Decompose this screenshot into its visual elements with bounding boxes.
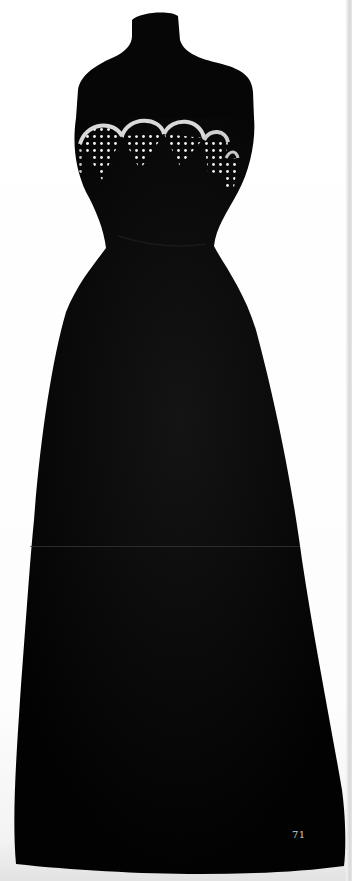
book-page: 71 [0, 0, 352, 881]
page-number: 71 [292, 829, 306, 840]
gown-photo [0, 0, 352, 881]
mannequin-torso [76, 13, 254, 118]
page-fold-line [30, 546, 300, 547]
gown-silhouette [14, 118, 345, 874]
